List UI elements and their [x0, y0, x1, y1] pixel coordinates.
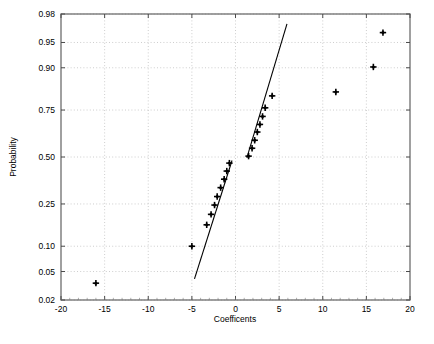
y-tick-label: 0.50 — [38, 152, 55, 162]
x-tick-label: -15 — [98, 304, 111, 314]
marker-center — [219, 186, 222, 189]
y-tick-label: 0.90 — [38, 63, 55, 73]
x-axis-label: Coefficents — [214, 314, 256, 324]
y-tick-label: 0.98 — [38, 9, 55, 19]
marker-center — [216, 195, 219, 198]
y-axis-label: Probability — [8, 136, 18, 176]
y-tick-label: 0.10 — [38, 241, 55, 251]
marker-center — [372, 65, 375, 68]
x-tick-label: -10 — [142, 304, 155, 314]
x-tick-label: -20 — [55, 304, 68, 314]
marker-center — [334, 90, 337, 93]
marker-center — [205, 223, 208, 226]
y-tick-label: 0.75 — [38, 105, 55, 115]
figure-background — [0, 0, 434, 344]
marker-center — [381, 31, 384, 34]
y-tick-label: 0.05 — [38, 267, 55, 277]
x-tick-label: -5 — [188, 304, 196, 314]
x-tick-label: 0 — [233, 304, 238, 314]
marker-center — [258, 123, 261, 126]
marker-center — [190, 245, 193, 248]
marker-center — [213, 204, 216, 207]
marker-center — [261, 115, 264, 118]
marker-center — [271, 94, 274, 97]
marker-center — [210, 213, 213, 216]
marker-center — [251, 147, 254, 150]
y-tick-label: 0.95 — [38, 37, 55, 47]
normal-probability-plot: -20-15-10-5051015200.020.050.100.250.500… — [0, 0, 434, 344]
x-tick-label: 15 — [362, 304, 372, 314]
marker-center — [264, 106, 267, 109]
marker-center — [253, 139, 256, 142]
x-tick-label: 10 — [318, 304, 328, 314]
x-tick-label: 5 — [277, 304, 282, 314]
marker-center — [94, 282, 97, 285]
x-tick-label: 20 — [405, 304, 415, 314]
marker-center — [256, 131, 259, 134]
y-tick-label: 0.25 — [38, 199, 55, 209]
y-tick-label: 0.02 — [38, 295, 55, 305]
